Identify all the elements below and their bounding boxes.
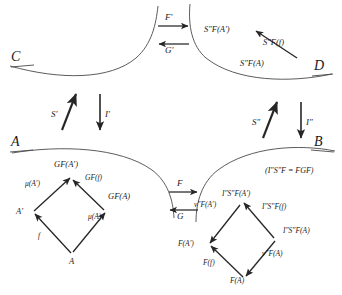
label-s-prime: S′ xyxy=(51,110,57,119)
label-f-prime: F′ xyxy=(165,13,172,22)
label-a-edge-top-left: μ(A′) xyxy=(25,180,40,188)
label-b-edge-top-right: I″S″F(f) xyxy=(262,203,286,211)
label-d-arrow: S″F(f) xyxy=(263,38,284,47)
label-b-edge-bottom-right: ν″F(A) xyxy=(262,250,283,258)
label-b-edge-top-left: ν″F(A′) xyxy=(194,201,216,209)
label-b-edge-bottom-left: F(f) xyxy=(203,259,215,267)
edge-b-right-to-bottom xyxy=(246,241,275,276)
label-a-left: A′ xyxy=(16,207,23,216)
label-g-prime: G′ xyxy=(165,46,173,55)
diagram-canvas: C D A B F′ G′ F G S′ I′ S″ I″ S″F(A′) S″… xyxy=(0,0,342,295)
label-i-prime: I′ xyxy=(105,110,110,119)
label-b-right: I″S″F(A) xyxy=(283,227,310,235)
arrow-s-dprime-up xyxy=(263,102,277,138)
edge-a-bottom-to-left xyxy=(35,214,71,253)
underline-c xyxy=(11,65,34,67)
label-d-object-bottom: S″F(A) xyxy=(240,59,264,68)
label-d-object-top-left: S″F(A′) xyxy=(204,25,230,34)
label-a-edge-bottom-right: μ(A) xyxy=(88,213,101,221)
diamond-b xyxy=(210,203,275,277)
annotation-equation: (I″S″F = FGF) xyxy=(265,167,314,175)
label-i-dprime: I″ xyxy=(306,118,313,127)
label-f: F xyxy=(177,179,183,188)
region-label-d: D xyxy=(314,59,324,73)
edge-b-bottom-to-left xyxy=(211,246,243,277)
label-b-bottom: F(A) xyxy=(230,277,244,285)
label-s-dprime: S″ xyxy=(252,118,260,127)
region-label-a: A xyxy=(11,135,20,149)
edge-a-right-to-top xyxy=(73,180,104,210)
region-label-c: C xyxy=(11,50,20,64)
label-a-edge-bottom-left: f xyxy=(38,232,40,240)
label-b-top: I″S″F(A′) xyxy=(222,190,250,198)
label-g: G xyxy=(177,212,184,221)
arrow-s-prime-up xyxy=(62,94,76,130)
edge-b-top-to-left xyxy=(210,205,240,243)
label-a-edge-top-right: GF(f) xyxy=(85,174,102,182)
label-a-right: GF(A) xyxy=(108,192,130,201)
label-b-left: F(A′) xyxy=(178,240,194,248)
label-a-bottom: A xyxy=(69,257,74,266)
region-label-b: B xyxy=(314,135,323,149)
label-a-top: GF(A′) xyxy=(54,160,78,169)
